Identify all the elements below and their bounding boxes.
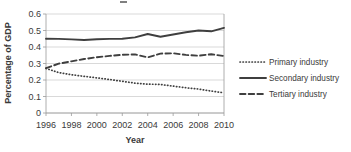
- x-tick-label: 2002: [112, 120, 132, 130]
- x-tick-label: 2008: [189, 120, 209, 130]
- y-tick-label: 0: [36, 108, 41, 118]
- legend-item: Primary industry: [240, 58, 329, 67]
- line-chart: 00.10.20.30.40.50.6 19961998200020022004…: [0, 0, 351, 152]
- chart-figure: 00.10.20.30.40.50.6 19961998200020022004…: [0, 0, 351, 152]
- y-tick-labels: 00.10.20.30.40.50.6: [28, 9, 41, 118]
- y-tick-label: 0.2: [28, 75, 41, 85]
- legend-item: Secondary industry: [240, 74, 340, 83]
- series-paths: [46, 28, 224, 93]
- x-tick-marks: [46, 113, 224, 116]
- y-tick-label: 0.4: [28, 42, 41, 52]
- legend-label: Tertiary industry: [269, 90, 328, 99]
- x-tick-label: 2006: [163, 120, 183, 130]
- y-tick-label: 0.5: [28, 26, 41, 36]
- x-tick-label: 1996: [36, 120, 56, 130]
- legend-label: Secondary industry: [269, 74, 340, 83]
- y-tick-label: 0.1: [28, 92, 41, 102]
- y-axis-title: Percentage of GDP: [3, 22, 13, 104]
- x-tick-labels: 19961998200020022004200620082010: [36, 120, 234, 130]
- x-tick-label: 2004: [138, 120, 158, 130]
- gridlines: [46, 14, 224, 113]
- x-tick-label: 2010: [214, 120, 234, 130]
- series-line-solid: [46, 28, 224, 40]
- y-tick-label: 0.6: [28, 9, 41, 19]
- legend-item: Tertiary industry: [240, 90, 328, 99]
- series-line-dotted: [46, 68, 224, 92]
- series-line-dashed: [46, 53, 224, 68]
- y-tick-marks: [43, 14, 46, 113]
- x-axis-title: Year: [125, 135, 145, 145]
- legend-label: Primary industry: [269, 58, 329, 67]
- x-tick-label: 2000: [87, 120, 107, 130]
- y-tick-label: 0.3: [28, 59, 41, 69]
- x-tick-label: 1998: [61, 120, 81, 130]
- legend: Primary industrySecondary industryTertia…: [240, 58, 340, 99]
- chart-title-remnant: [120, 1, 127, 3]
